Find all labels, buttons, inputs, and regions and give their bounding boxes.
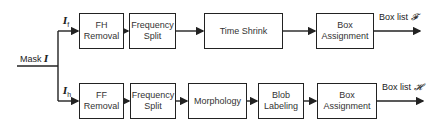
output-h-symbol: 𝓗 (414, 82, 422, 92)
output-f-symbol: 𝓕 (411, 12, 418, 22)
output-h-text: Box list (382, 82, 411, 92)
block-frequency-split-bottom: Frequency Split (130, 83, 176, 119)
block-blob-labeling: Blob Labeling (258, 83, 304, 119)
ih-sub: h (67, 91, 71, 98)
output-f-text: Box list (379, 12, 408, 22)
output-box-list-h: Box list 𝓗 (382, 82, 422, 93)
block-fh-removal: FH Removal (79, 13, 124, 49)
output-box-list-f: Box list 𝓕 (379, 12, 418, 23)
block-box-assignment-bottom: Box Assignment (317, 83, 377, 119)
mask-symbol: I (44, 54, 48, 64)
input-mask-label: Mask I (20, 54, 48, 64)
mask-text: Mask (20, 54, 42, 64)
block-ff-removal: FF Removal (79, 83, 124, 119)
block-frequency-split-top: Frequency Split (129, 13, 176, 49)
signal-if-label: If (63, 16, 69, 28)
block-box-assignment-top: Box Assignment (316, 13, 374, 49)
block-time-shrink: Time Shrink (204, 13, 283, 49)
signal-ih-label: Ih (63, 86, 71, 98)
if-sub: f (67, 21, 69, 28)
block-morphology: Morphology (188, 83, 247, 119)
